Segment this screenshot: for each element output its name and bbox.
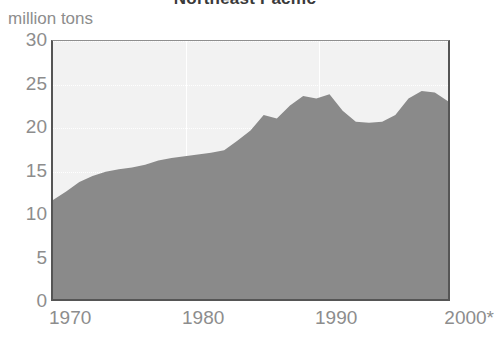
x-axis-tick-label: 1980: [182, 307, 224, 329]
y-axis-tick-labels: 051015202530: [0, 0, 47, 342]
area-fill-path: [53, 91, 448, 299]
y-axis-tick-label: 20: [3, 117, 47, 136]
y-axis-tick-label: 5: [3, 248, 47, 267]
x-axis-tick-label: 2000*: [444, 307, 494, 329]
area-series-northeast-pacific: [53, 41, 448, 299]
y-axis-tick-label: 30: [3, 30, 47, 49]
plot-area: [51, 40, 450, 301]
x-axis-tick-label: 1970: [49, 307, 91, 329]
y-axis-tick-label: 25: [3, 74, 47, 93]
y-axis-tick-label: 0: [3, 291, 47, 310]
x-axis-tick-label: 1990: [315, 307, 357, 329]
y-axis-tick-label: 10: [3, 204, 47, 223]
chart-title: Northeast Pacific: [0, 0, 490, 4]
y-axis-tick-label: 15: [3, 161, 47, 180]
